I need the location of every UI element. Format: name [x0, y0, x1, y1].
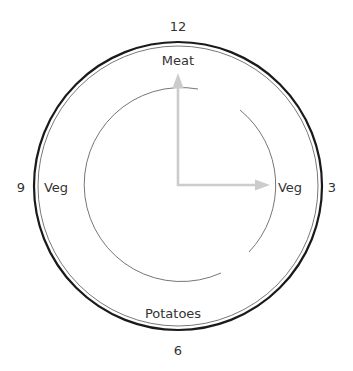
hour-label-9: 9 — [17, 180, 25, 195]
hour-label-3: 3 — [328, 180, 336, 195]
hour-hand-arrow-icon — [177, 180, 270, 191]
food-label-meat: Meat — [162, 53, 194, 68]
food-label-veg-right: Veg — [278, 180, 302, 195]
food-label-veg-left: Veg — [44, 180, 68, 195]
clock-plate-diagram: 12 3 6 9 Meat Veg Potatoes Veg — [0, 0, 353, 371]
figure-caption — [6, 362, 351, 371]
hour-label-12: 12 — [170, 19, 187, 34]
food-label-potatoes: Potatoes — [145, 306, 201, 321]
hour-label-6: 6 — [174, 343, 182, 358]
minute-hand-arrow-icon — [173, 73, 184, 186]
